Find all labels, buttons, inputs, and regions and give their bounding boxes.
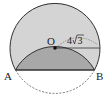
label-radius-root: 3 bbox=[78, 35, 83, 46]
folded-circle-diagram: O A B 4 3 bbox=[0, 0, 112, 98]
label-b: B bbox=[96, 70, 103, 82]
label-radius-coef: 4 bbox=[67, 35, 72, 46]
label-a: A bbox=[4, 70, 12, 82]
circle-arc-dashed bbox=[16, 70, 95, 93]
label-o: O bbox=[47, 35, 55, 47]
